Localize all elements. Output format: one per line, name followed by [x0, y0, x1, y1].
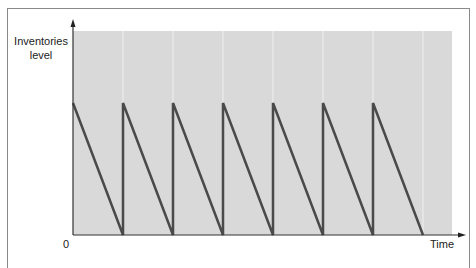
x-axis-label: Time [430, 238, 454, 250]
origin-label: 0 [63, 238, 69, 250]
y-axis-label: Inventories level [12, 34, 70, 62]
y-axis-arrow-icon [71, 19, 76, 27]
x-axis-arrow-icon [458, 233, 466, 238]
